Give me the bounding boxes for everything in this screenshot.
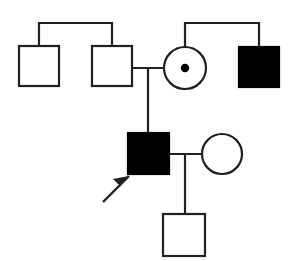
generation1-male-unaffected-left[interactable] xyxy=(19,46,59,86)
pedigree-figure xyxy=(0,0,299,261)
generation1-male-unaffected-father[interactable] xyxy=(92,46,132,86)
generation3-male-unaffected-child[interactable] xyxy=(163,214,205,256)
generation-3-group xyxy=(163,214,205,256)
figure-background xyxy=(0,0,299,261)
pedigree-canvas xyxy=(0,0,299,261)
generation2-male-affected-proband[interactable] xyxy=(128,133,169,174)
generation1-male-affected-right[interactable] xyxy=(239,47,279,87)
carrier-dot-icon xyxy=(181,64,189,72)
generation2-female-unaffected-spouse[interactable] xyxy=(202,134,242,174)
